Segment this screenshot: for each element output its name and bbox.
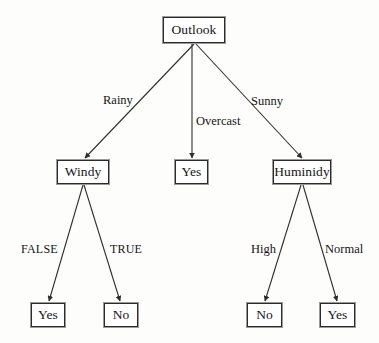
edge-label-humidity-yes: Normal bbox=[325, 243, 363, 256]
tree-node-yes-right: Yes bbox=[320, 303, 355, 327]
tree-node-yes-left: Yes bbox=[31, 303, 65, 327]
tree-node-label: Windy bbox=[65, 165, 102, 179]
tree-edge-root-windy bbox=[85, 44, 194, 158]
edge-label-root-humidity: Sunny bbox=[251, 95, 283, 108]
tree-node-no-right: No bbox=[247, 303, 282, 327]
edge-label-humidity-no: High bbox=[251, 243, 276, 256]
tree-node-root: Outlook bbox=[163, 17, 225, 43]
tree-node-label: Huminidy bbox=[274, 165, 330, 179]
tree-node-windy: Windy bbox=[57, 160, 109, 184]
tree-node-label: Yes bbox=[182, 165, 202, 179]
decision-tree-diagram: OutlookWindyYesHuminidyYesNoNoYes RainyO… bbox=[0, 0, 379, 343]
tree-node-label: Outlook bbox=[172, 23, 217, 37]
edge-label-root-windy: Rainy bbox=[103, 94, 133, 107]
tree-node-label: Yes bbox=[328, 308, 348, 322]
edge-label-windy-no: TRUE bbox=[110, 243, 142, 255]
tree-node-humidity: Huminidy bbox=[273, 160, 331, 184]
tree-node-label: No bbox=[256, 308, 273, 322]
tree-node-label: Yes bbox=[38, 308, 58, 322]
tree-node-yes-mid: Yes bbox=[175, 160, 208, 184]
tree-node-label: No bbox=[113, 308, 130, 322]
tree-node-no-left: No bbox=[104, 303, 138, 327]
tree-edge-root-humidity bbox=[196, 44, 302, 158]
edge-label-root-yes: Overcast bbox=[196, 115, 240, 128]
edge-label-windy-yes: FALSE bbox=[21, 243, 58, 255]
